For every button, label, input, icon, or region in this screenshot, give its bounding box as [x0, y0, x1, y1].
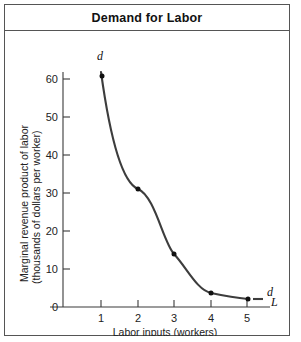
demand-curve-chart: Marginal revenue product of labor (thous… [5, 32, 291, 336]
x-tick-label-2: 2 [135, 312, 141, 324]
y-axis-title: Marginal revenue product of labor (thous… [18, 124, 42, 284]
y-tick-label-40: 40 [46, 149, 58, 161]
x-tick-label-5: 5 [244, 312, 250, 324]
figure-frame: Demand for Labor Marginal revenue produc… [4, 4, 290, 336]
x-axis-ticks [101, 300, 247, 307]
y-tick-label-20: 20 [46, 225, 58, 237]
x-tick-label-4: 4 [208, 312, 214, 324]
y-tick-label-30: 30 [46, 187, 58, 199]
data-point-2 [136, 187, 141, 192]
page-title: Demand for Labor [92, 11, 203, 25]
y-tick-label-60: 60 [46, 73, 58, 85]
x-tick-label-1: 1 [98, 312, 104, 324]
plot-area: Marginal revenue product of labor (thous… [5, 32, 291, 336]
x-axis-tick-labels: 1 2 3 4 5 [98, 312, 250, 324]
curve-label-end: d [267, 285, 274, 299]
y-axis-title-line1: Marginal revenue product of labor [18, 124, 30, 282]
y-axis-title-line2: (thousands of dollars per worker) [30, 131, 42, 285]
y-tick-label-10: 10 [46, 263, 58, 275]
figure-title-bar: Demand for Labor [5, 5, 289, 31]
data-point-1 [100, 74, 105, 79]
y-tick-label-50: 50 [46, 111, 58, 123]
x-tick-label-3: 3 [171, 312, 177, 324]
y-axis-ticks [63, 79, 70, 269]
data-points [100, 74, 251, 302]
data-point-4 [209, 291, 214, 296]
data-point-3 [172, 252, 177, 257]
demand-curve-line [101, 72, 248, 299]
y-axis-tick-labels: 60 50 40 30 20 10 0 [46, 73, 58, 313]
data-point-5 [246, 297, 251, 302]
y-tick-label-0: 0 [52, 301, 58, 313]
curve-label-start: d [97, 49, 104, 63]
x-axis-title: Labor inputs (workers) [113, 326, 217, 336]
